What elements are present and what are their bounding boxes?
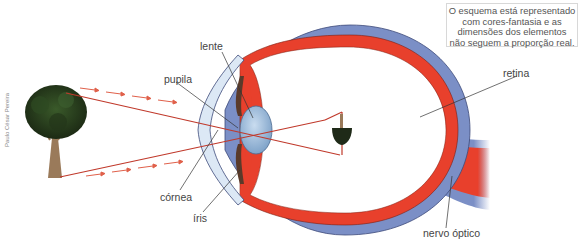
label-pupila: pupila xyxy=(164,73,192,85)
label-retina: retina xyxy=(503,67,529,79)
ray-arrows xyxy=(80,88,183,176)
eye-diagram: O esquema está representado com cores-fa… xyxy=(0,0,585,243)
tree-object xyxy=(25,85,87,178)
disclaimer-note: O esquema está representado com cores-fa… xyxy=(446,3,578,47)
note-line: O esquema está representado xyxy=(447,6,577,17)
label-lente: lente xyxy=(200,40,223,52)
label-nervo-optico: nervo óptico xyxy=(423,227,480,239)
credit-text: Paulo César Pereira xyxy=(4,93,10,147)
image-credit: Paulo César Pereira xyxy=(0,80,14,160)
label-cornea: córnea xyxy=(160,191,192,203)
lens xyxy=(240,106,272,154)
note-line: não seguem a proporção real. xyxy=(447,38,577,49)
label-iris: íris xyxy=(193,212,207,224)
